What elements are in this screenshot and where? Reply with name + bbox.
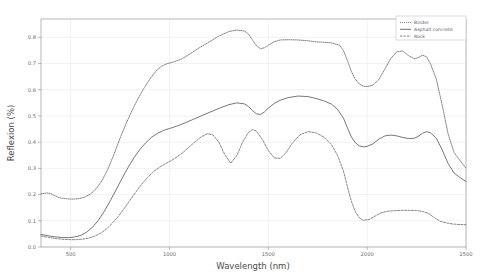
x-tick-label: 1500 [262,251,275,257]
reflectance-spectra-chart: 5001000150020002500 0.00.10.20.30.40.50.… [0,0,482,280]
x-tick-label: 2000 [361,251,374,257]
legend-label-binder: Binder [414,20,429,25]
x-tick-label: 2500 [459,251,472,257]
x-tick-label: 500 [66,251,76,257]
legend-label-rock: Rock [414,34,425,39]
legend-label-asphalt-concrete: Asphalt concrete [414,27,453,32]
y-tick-label: 0.4 [28,139,37,145]
chart-legend: BinderAsphalt concreteRock [396,16,466,40]
y-tick-label: 0.6 [28,87,36,93]
y-tick-label: 0.2 [28,191,36,197]
x-tick-label: 1000 [163,251,176,257]
chart-background [0,0,482,280]
y-axis-label: Reflexion (%) [6,105,16,162]
y-tick-label: 0.3 [28,165,36,171]
y-tick-label: 0.1 [28,218,36,224]
y-tick-label: 0.8 [28,34,36,40]
y-tick-label: 0.5 [28,113,36,119]
y-tick-label: 0.7 [28,60,36,66]
y-tick-label: 0.0 [28,244,36,250]
x-axis-label: Wavelength (nm) [216,261,289,271]
